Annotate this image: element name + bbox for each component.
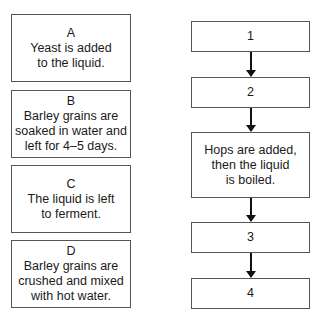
- flow-step-4: 4: [191, 278, 310, 309]
- statement-text-line: crushed and mixed: [18, 274, 124, 289]
- statement-letter: B: [67, 94, 75, 109]
- down-arrow-icon: [250, 198, 252, 221]
- down-arrow-icon: [250, 108, 252, 131]
- statement-card-c: C The liquid is left to ferment.: [11, 165, 131, 233]
- statement-letter: C: [66, 177, 75, 192]
- flow-step-hops: Hops are added, then the liquid is boile…: [191, 132, 310, 198]
- statement-text-line: Barley grains are: [24, 109, 119, 124]
- statement-text-line: The liquid is left: [28, 192, 115, 207]
- flow-step-label: 4: [247, 286, 254, 301]
- statement-text-line: to the liquid.: [37, 56, 104, 71]
- flow-step-1: 1: [191, 21, 310, 52]
- statement-card-d: D Barley grains are crushed and mixed wi…: [11, 240, 131, 308]
- flow-step-label: 3: [247, 230, 254, 245]
- flow-step-text-line: then the liquid: [212, 158, 290, 173]
- statement-text-line: to ferment.: [41, 207, 101, 222]
- flow-step-text-line: is boiled.: [226, 173, 275, 188]
- statement-text-line: Barley grains are: [24, 259, 119, 274]
- statement-card-b: B Barley grains are soaked in water and …: [11, 90, 131, 158]
- statement-text-line: Yeast is added: [30, 41, 112, 56]
- flow-step-3: 3: [191, 222, 310, 253]
- statement-text-line: with hot water.: [31, 289, 111, 304]
- down-arrow-icon: [250, 253, 252, 277]
- flow-step-label: 2: [247, 85, 254, 100]
- statement-card-a: A Yeast is added to the liquid.: [11, 14, 131, 82]
- statement-text-line: soaked in water and: [15, 124, 127, 139]
- statement-letter: A: [67, 26, 75, 41]
- flow-step-label: 1: [247, 29, 254, 44]
- down-arrow-icon: [250, 52, 252, 76]
- statement-text-line: left for 4–5 days.: [25, 139, 117, 154]
- flow-step-2: 2: [191, 77, 310, 108]
- statement-letter: D: [66, 244, 75, 259]
- flow-step-text-line: Hops are added,: [204, 143, 296, 158]
